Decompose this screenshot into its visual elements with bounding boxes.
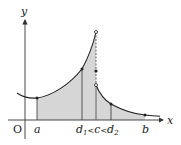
point-c-top-open [95, 31, 98, 34]
function-graph: y x O a d1<c<d2 b [0, 0, 181, 145]
point-a [36, 97, 39, 100]
point-b [144, 114, 147, 117]
tick-label-b: b [142, 123, 149, 136]
origin-label: O [13, 123, 22, 136]
point-d2 [110, 103, 113, 106]
point-c-bottom-open [95, 84, 98, 87]
y-axis-label: y [20, 5, 28, 18]
point-c-mid-filled [94, 69, 97, 72]
tick-label-d1-c-d2: d1<c<d2 [76, 123, 119, 137]
point-d1 [81, 68, 84, 71]
shaded-region-left [37, 32, 96, 120]
shaded-region-right [96, 85, 145, 120]
x-axis-label: x [167, 114, 174, 127]
tick-label-a: a [34, 123, 41, 136]
